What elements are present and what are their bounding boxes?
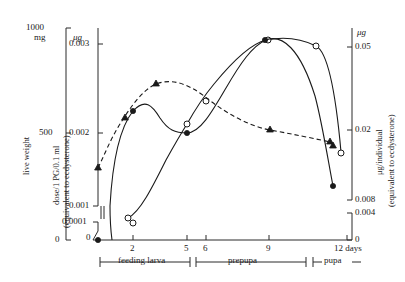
tick-live-weight-0: 0 xyxy=(55,235,60,244)
unit-live-weight-mg: mg xyxy=(34,33,46,42)
tick-live-weight-500: 500 xyxy=(39,128,53,137)
series-dose-per-gland xyxy=(95,37,335,242)
tick-day-5: 5 xyxy=(184,244,189,253)
tick-day-9: 9 xyxy=(266,244,271,253)
tick-dose-0003: 0.003 xyxy=(69,39,89,48)
series-haemolymph-titre xyxy=(95,80,337,170)
tick-dose-0001: 0.001 xyxy=(69,201,89,210)
tick-dose-0: 0 xyxy=(86,233,91,242)
tick-indiv-002: 0.02 xyxy=(355,125,371,134)
series-amount-per-individual xyxy=(125,37,344,226)
chart-figure: 1000 mg 500 0 live weight μg 0.003 0.002… xyxy=(0,0,405,282)
axis-subtitle-dose-pg: (equivalent to ecdysterone) xyxy=(62,135,71,228)
axis-title-per-individual: μg/individual xyxy=(375,129,384,175)
tick-indiv-005: 0.05 xyxy=(355,42,371,51)
tick-day-12: 12 days xyxy=(334,244,362,253)
tick-dose-0002: 0.002 xyxy=(69,128,89,137)
stage-label-feeding-larva: feeding larva xyxy=(118,256,165,265)
axis-dose-pg xyxy=(93,28,104,240)
axis-title-dose-pg: dose/1 PG/0.1 ml xyxy=(52,146,61,205)
tick-day-6: 6 xyxy=(203,244,208,253)
unit-per-individual: μg xyxy=(357,28,366,37)
axis-subtitle-per-individual: (equivalent to ecdysterone) xyxy=(387,114,396,207)
stage-label-pupa: pupa xyxy=(324,256,342,265)
axis-title-live-weight: live weight xyxy=(22,137,31,175)
tick-indiv-0008: 0.008 xyxy=(355,195,375,204)
tick-day-2: 2 xyxy=(130,244,135,253)
tick-indiv-0004: 0.004 xyxy=(355,208,375,217)
axis-days xyxy=(98,235,352,240)
tick-live-weight-1000: 1000 xyxy=(26,23,44,32)
axis-per-individual xyxy=(347,28,352,240)
stage-label-prepupa: prepupa xyxy=(228,256,257,265)
